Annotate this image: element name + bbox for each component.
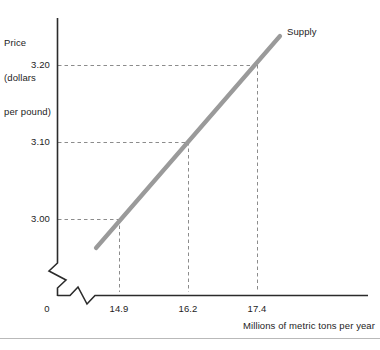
y-tick-label-3-10: 3.10 (4, 136, 50, 148)
chart-canvas (0, 0, 380, 350)
x-axis-line (58, 287, 369, 304)
x-tick-label-16-2: 16.2 (168, 303, 208, 315)
vertical-guide-lines (120, 65, 258, 292)
supply-curve-figure: Price (dollars per pound) 3.20 3.10 3.00… (0, 0, 380, 350)
supply-curve-label: Supply (287, 26, 317, 38)
horizontal-guide-lines (58, 66, 258, 220)
y-axis-title-line-1: Price (4, 37, 51, 49)
y-tick-label-3-00: 3.00 (4, 213, 50, 225)
y-axis-line (49, 18, 66, 296)
y-axis-title: Price (dollars per pound) (4, 14, 51, 141)
y-axis-title-line-2: (dollars (4, 72, 51, 84)
origin-label: 0 (37, 303, 57, 315)
x-axis-title: Millions of metric tons per year (243, 320, 375, 332)
x-tick-label-14-9: 14.9 (99, 303, 139, 315)
y-axis-title-line-3: per pound) (4, 106, 51, 118)
x-tick-label-17-4: 17.4 (237, 303, 277, 315)
y-tick-label-3-20: 3.20 (4, 59, 50, 71)
